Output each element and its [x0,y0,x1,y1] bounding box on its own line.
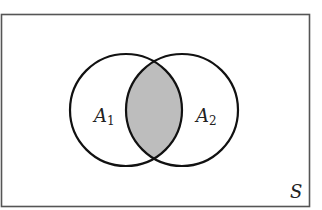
venn-diagram: A1 A2 S [0,0,322,210]
universe-label: S [290,181,302,202]
